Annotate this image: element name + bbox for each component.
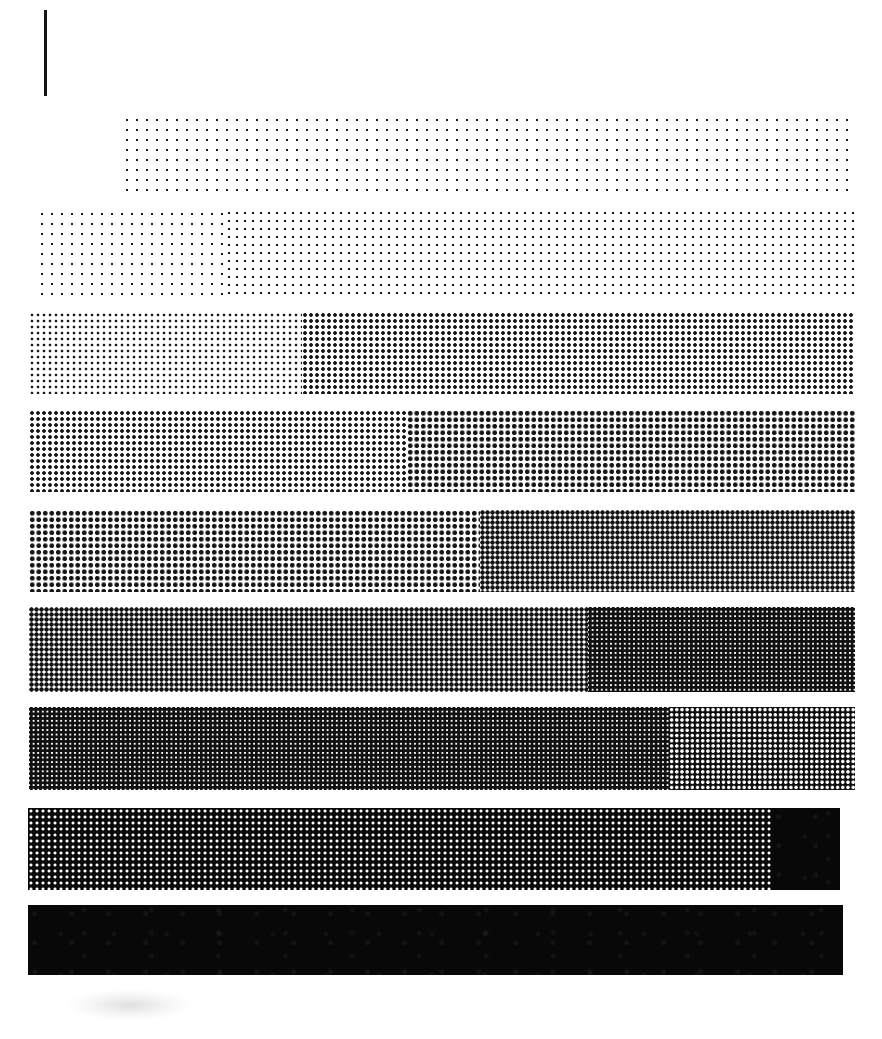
wedge-bar [29,410,855,492]
wedge-segment-a [29,410,407,492]
wedge-segment-a [28,905,843,975]
wedge-segment-a [29,510,480,592]
wedge-bar [122,115,854,193]
scale-tick-icon [44,10,47,96]
scan-smudge-artifact [70,990,190,1020]
wedge-segment-a [29,312,302,394]
wedge-bar [28,808,840,890]
wedge-bar [37,209,855,297]
wedge-bar [29,707,855,790]
wedge-segment-a [122,115,854,193]
wedge-bar [28,905,843,975]
wedge-segment-a [29,707,669,790]
wedge-segment-a [28,808,772,890]
wedge-segment-a [29,607,588,692]
wedge-segment-a [37,209,225,297]
wedge-segment-b [588,607,855,692]
wedge-bar [29,510,855,592]
wedge-segment-b [480,510,855,592]
wedge-bar [29,607,855,692]
wedge-segment-b [669,707,855,790]
halftone-step-wedge-figure [0,0,882,1039]
wedge-segment-b [772,808,840,890]
wedge-segment-b [225,209,855,297]
wedge-segment-b [407,410,855,492]
wedge-segment-b [302,312,855,394]
wedge-bar [29,312,855,394]
